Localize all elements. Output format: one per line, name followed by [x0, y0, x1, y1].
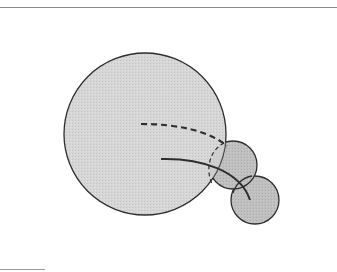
bottom-rule	[0, 269, 45, 270]
big-circle	[64, 53, 226, 215]
venn-like-diagram	[0, 0, 337, 272]
